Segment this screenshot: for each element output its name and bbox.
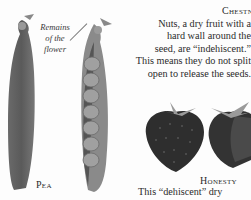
strawberry-cut-illustration (205, 100, 251, 170)
honesty-heading: Honesty (200, 175, 237, 186)
annotation-line-3: flower (38, 44, 72, 55)
chestnut-text-line: Nuts, a dry fruit with a (91, 18, 251, 30)
chestnut-description: Nuts, a dry fruit with a hard wall aroun… (91, 18, 251, 80)
chestnut-text-line: seed, are “indehiscent.” (91, 43, 251, 55)
annotation-line-2: of the (38, 33, 72, 44)
chestnut-text-line: hard wall around the (91, 30, 251, 42)
pea-pod-closed-illustration (4, 12, 40, 192)
pea-label: Pea (36, 179, 52, 190)
chestnut-text-line: This means they do not split (91, 55, 251, 67)
strawberry-whole-illustration (140, 100, 210, 175)
chestnut-heading: Chestnut (222, 5, 251, 16)
chestnut-text-line: open to release the seeds. (91, 68, 251, 80)
book-page: Remains of the flower Pea Chestnut Nuts,… (0, 0, 251, 200)
honesty-description: This “dehiscent” dry (138, 186, 222, 197)
annotation-remains-of-flower: Remains of the flower (38, 22, 72, 55)
annotation-line-1: Remains (38, 22, 72, 33)
